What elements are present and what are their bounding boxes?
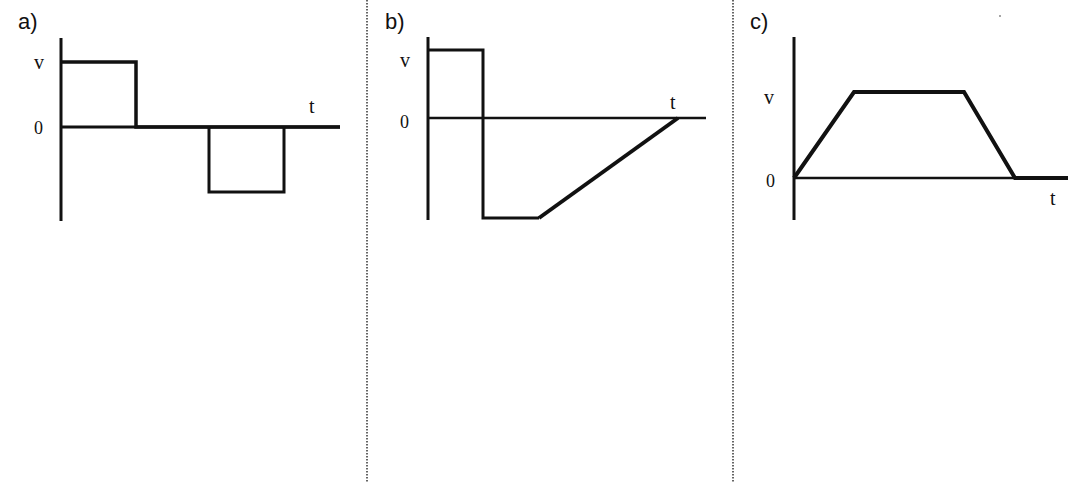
figure: a) v 0 t b) v 0 t c) v 0 t xyxy=(0,0,1070,482)
signal-trace xyxy=(61,62,340,127)
panel-label: c) xyxy=(750,9,768,34)
panel-a: a) v 0 t xyxy=(18,9,340,221)
y-tick-zero: 0 xyxy=(400,112,409,132)
ramp-segment xyxy=(539,118,678,218)
x-axis-label-t: t xyxy=(1050,187,1056,209)
panel-b: b) v 0 t xyxy=(385,9,706,220)
y-tick-zero: 0 xyxy=(766,171,775,191)
x-axis-label-t: t xyxy=(309,95,315,117)
figure-canvas: a) v 0 t b) v 0 t c) v 0 t xyxy=(0,0,1070,482)
signal-trace xyxy=(428,50,539,218)
panel-c: c) v 0 t xyxy=(750,9,1068,220)
y-axis-label-v: v xyxy=(764,86,774,108)
y-tick-zero: 0 xyxy=(34,118,43,138)
y-axis-label-v: v xyxy=(400,49,410,71)
x-axis-label-t: t xyxy=(670,91,676,113)
negative-pulse xyxy=(209,127,284,192)
panel-label: b) xyxy=(385,9,405,34)
panel-label: a) xyxy=(18,9,38,34)
y-axis-label-v: v xyxy=(34,51,44,73)
speck xyxy=(999,15,1001,17)
signal-trace xyxy=(794,92,1068,178)
